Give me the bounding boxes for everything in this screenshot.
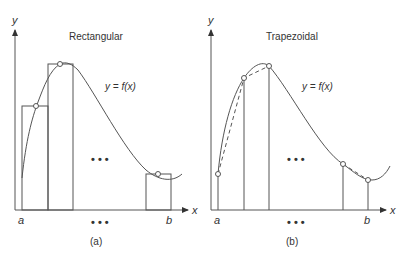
- ellipsis-middle: • • •: [91, 153, 109, 165]
- panel-caption: (b): [286, 236, 298, 247]
- panel-title: Trapezoidal: [266, 31, 318, 42]
- upper-bound-label: b: [166, 214, 172, 226]
- ellipsis-bottom: • • •: [287, 216, 305, 228]
- panel-rectangular: y x Rectangular y = f(x) • • • • • • a b…: [11, 14, 198, 247]
- integration-diagram: y x Rectangular y = f(x) • • • • • • a b…: [0, 0, 407, 261]
- panel-caption: (a): [90, 236, 102, 247]
- y-axis-label: y: [207, 14, 215, 26]
- upper-bound-label: b: [364, 214, 370, 226]
- y-axis-label: y: [11, 14, 19, 26]
- sample-point: [216, 172, 221, 177]
- function-label: y = f(x): [301, 81, 333, 92]
- sample-point: [58, 62, 63, 67]
- sample-point: [341, 162, 346, 167]
- ellipsis-bottom: • • •: [91, 216, 109, 228]
- function-label: y = f(x): [104, 81, 136, 92]
- lower-bound-label: a: [18, 214, 24, 226]
- x-axis-label: x: [389, 204, 396, 216]
- rectangle-2: [48, 64, 73, 210]
- rectangle-1: [22, 106, 48, 210]
- panel-title: Rectangular: [69, 31, 124, 42]
- panel-trapezoidal: y x Trapezoidal y = f(x) • • • • • • a b…: [207, 14, 396, 247]
- sample-point: [267, 64, 272, 69]
- ellipsis-middle: • • •: [287, 153, 305, 165]
- sample-point: [242, 76, 247, 81]
- sample-point: [156, 172, 161, 177]
- sample-point: [366, 178, 371, 183]
- x-axis-label: x: [191, 204, 198, 216]
- lower-bound-label: a: [214, 214, 220, 226]
- sample-point: [34, 104, 39, 109]
